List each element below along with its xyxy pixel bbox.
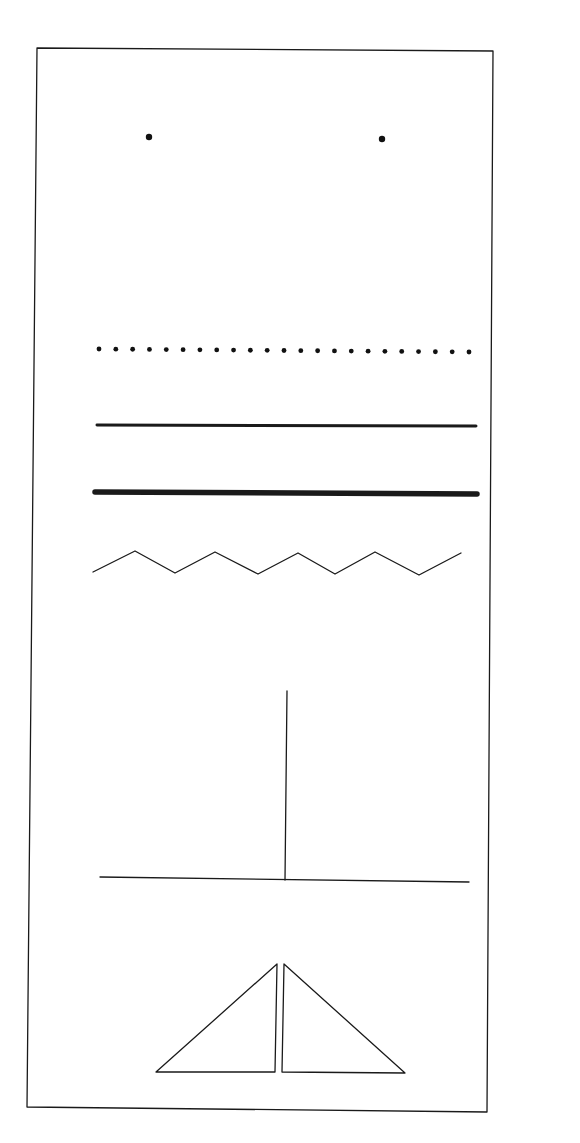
dot: [97, 347, 102, 352]
left-right-triangle: [156, 964, 277, 1072]
inverted-t-shape: [100, 691, 469, 882]
dot: [433, 349, 438, 354]
dot: [298, 348, 303, 353]
dot: [214, 348, 219, 353]
line-drawing-canvas: [0, 0, 580, 1143]
dot: [349, 349, 354, 354]
dot: [265, 348, 270, 353]
dot: [113, 347, 118, 352]
dot: [231, 348, 236, 353]
dot: [399, 349, 404, 354]
dotted-line: [97, 347, 472, 355]
dot: [147, 347, 152, 352]
right-right-triangle: [282, 964, 405, 1073]
dot: [416, 349, 421, 354]
dot: [467, 350, 472, 355]
dot: [130, 347, 135, 352]
dot: [248, 348, 253, 353]
dot: [450, 349, 455, 354]
thick-horizontal-line: [95, 492, 477, 494]
thin-horizontal-line: [97, 425, 476, 426]
zigzag-line: [93, 551, 461, 575]
dot: [181, 347, 186, 352]
dot: [146, 134, 152, 140]
two-dots: [146, 134, 385, 142]
dot: [332, 349, 337, 354]
dot: [315, 348, 320, 353]
dot: [366, 349, 371, 354]
outer-frame: [27, 48, 493, 1112]
dot: [379, 136, 385, 142]
vertical-stem-line: [285, 691, 287, 880]
dot: [282, 348, 287, 353]
dot: [198, 347, 203, 352]
dot: [164, 347, 169, 352]
dot: [383, 349, 388, 354]
